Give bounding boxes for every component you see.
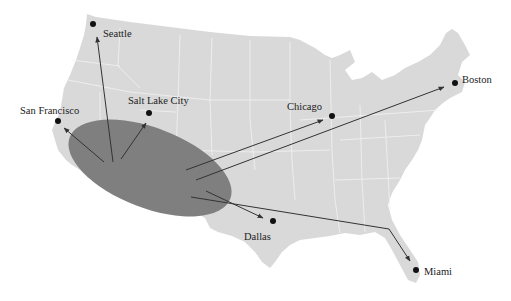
seattle-label: Seattle bbox=[103, 29, 132, 40]
boston-dot bbox=[452, 80, 458, 86]
salt-lake-city-label: Salt Lake City bbox=[128, 96, 189, 107]
dallas-dot bbox=[270, 218, 276, 224]
chicago-label: Chicago bbox=[287, 102, 322, 113]
san-francisco-label: San Francisco bbox=[20, 106, 79, 117]
seattle-dot bbox=[90, 21, 96, 27]
us-map bbox=[0, 0, 511, 301]
chicago-dot bbox=[329, 113, 335, 119]
boston-label: Boston bbox=[462, 75, 492, 86]
san-francisco-dot bbox=[55, 118, 61, 124]
miami-dot bbox=[413, 267, 419, 273]
salt-lake-city-dot bbox=[146, 110, 152, 116]
dallas-label: Dallas bbox=[244, 232, 271, 243]
miami-label: Miami bbox=[424, 267, 452, 278]
